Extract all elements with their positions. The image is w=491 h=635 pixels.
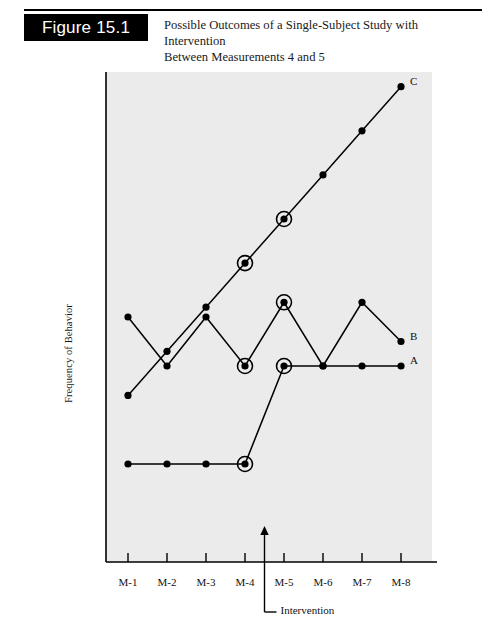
x-axis-tick-label: M-4: [225, 576, 265, 588]
x-axis-tick-label: M-8: [381, 576, 421, 588]
plot-background: [106, 72, 432, 562]
series-label-c: C: [410, 75, 417, 87]
series-label-a: A: [410, 354, 418, 366]
x-axis-tick-label: M-1: [108, 576, 148, 588]
chart-area: Frequency of Behavior M-1M-2M-3M-4M-5M-6…: [0, 0, 491, 635]
x-axis-tick-label: M-5: [264, 576, 304, 588]
x-axis-tick-label: M-2: [147, 576, 187, 588]
intervention-annotation-label: Intervention: [281, 604, 335, 616]
series-label-b: B: [410, 330, 417, 342]
figure-container: Figure 15.1 Possible Outcomes of a Singl…: [0, 0, 491, 635]
x-axis-tick-label: M-6: [303, 576, 343, 588]
chart-svg: [0, 0, 491, 635]
x-axis-tick-label: M-7: [342, 576, 382, 588]
y-axis-title: Frequency of Behavior: [63, 274, 74, 434]
x-axis-tick-label: M-3: [186, 576, 226, 588]
